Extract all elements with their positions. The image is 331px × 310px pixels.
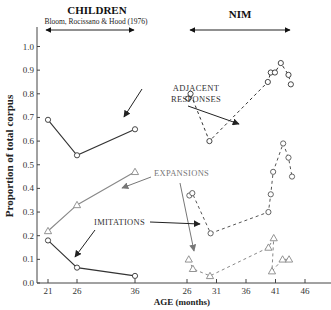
data-point-circle	[74, 265, 79, 270]
series-line	[48, 120, 135, 155]
data-point-circle	[45, 238, 50, 243]
y-tick-label: 0.2	[23, 231, 34, 241]
x-tick-label: 31	[212, 286, 221, 296]
y-tick-label: 0.8	[23, 89, 35, 99]
children-imitations-series	[45, 238, 137, 279]
y-tick-label: 0.5	[23, 160, 35, 170]
data-point-circle	[289, 174, 294, 179]
data-point-triangle	[206, 272, 213, 278]
nim-title: NIM	[229, 8, 252, 20]
data-point-triangle	[73, 201, 80, 207]
annotation-expansions: EXPANSIONS	[154, 168, 209, 178]
line-chart: CHILDREN Bloom, Rocissano & Hood (1976) …	[0, 0, 331, 310]
data-point-triangle	[265, 244, 272, 250]
series-line	[189, 143, 292, 233]
data-point-circle	[286, 155, 291, 160]
data-point-circle	[190, 191, 195, 196]
x-tick-label: 26	[73, 286, 83, 296]
x-tick-label: 36	[131, 286, 141, 296]
data-point-circle	[207, 139, 212, 144]
data-point-circle	[288, 82, 293, 87]
nim-imitations-series	[185, 234, 293, 278]
data-point-triangle	[185, 256, 192, 262]
x-tick-label: 46	[301, 286, 311, 296]
x-tick-label: 41	[271, 286, 280, 296]
annotation-adjacent-line1: ADJACENT	[173, 83, 220, 93]
arrow-imitations-nim	[150, 222, 200, 224]
data-point-triangle	[131, 168, 138, 174]
children-title: CHILDREN	[67, 4, 126, 16]
data-point-circle	[286, 72, 291, 77]
x-tick-label: 21	[44, 286, 53, 296]
data-point-circle	[272, 70, 277, 75]
arrow-adjacent-nim	[188, 106, 239, 124]
y-axis-title: Proportion of total corpus	[3, 94, 15, 217]
data-point-circle	[266, 209, 271, 214]
arrow-expansions-children	[122, 177, 151, 188]
data-point-circle	[132, 127, 137, 132]
y-tick-label: 0.3	[23, 207, 35, 217]
y-tick-label: 0.7	[23, 112, 35, 122]
y-tick-label: 1.0	[23, 42, 35, 52]
y-tick-label: 0.6	[23, 136, 35, 146]
y-tick-label: 0.9	[23, 65, 35, 75]
y-tick-label: 0.0	[23, 278, 35, 288]
x-tick-label: 36	[242, 286, 252, 296]
children-adjacent-responses-series	[45, 117, 137, 158]
nim-expansions-series	[187, 141, 295, 236]
data-point-circle	[74, 153, 79, 158]
series-line	[189, 238, 289, 276]
data-point-circle	[281, 141, 286, 146]
data-point-circle	[45, 117, 50, 122]
data-point-circle	[278, 60, 283, 65]
children-subtitle: Bloom, Rocissano & Hood (1976)	[44, 17, 148, 26]
data-point-triangle	[268, 268, 275, 274]
y-tick-label: 0.1	[23, 254, 34, 264]
data-point-circle	[265, 79, 270, 84]
data-point-circle	[268, 192, 273, 197]
data-point-triangle	[270, 234, 277, 240]
x-tick-label: 26	[183, 286, 193, 296]
data-point-circle	[208, 231, 213, 236]
data-point-circle	[271, 169, 276, 174]
data-point-circle	[132, 273, 137, 278]
chart-container: CHILDREN Bloom, Rocissano & Hood (1976) …	[0, 0, 331, 310]
y-tick-label: 0.4	[23, 183, 35, 193]
x-ticks: 2126362631364146	[44, 279, 311, 296]
data-point-triangle	[189, 265, 196, 271]
arrow-adjacent-children	[124, 89, 142, 117]
arrow-imitations-children	[75, 230, 95, 257]
x-axis-title: AGE (months)	[154, 297, 210, 307]
series-line	[48, 240, 135, 275]
annotation-imitations: IMITATIONS	[94, 217, 145, 227]
annotation-adjacent-line2: RESPONSES	[171, 94, 221, 104]
